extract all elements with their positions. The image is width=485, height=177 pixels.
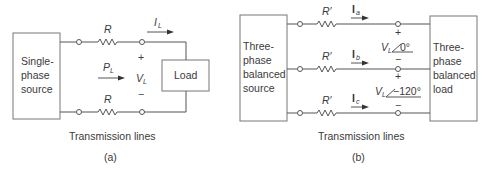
voltage-angle-bc: −120° (393, 85, 421, 97)
resistor-label-c: R′ (322, 94, 333, 106)
resistor-icon (317, 110, 336, 116)
current-subscript-b: b (356, 54, 360, 61)
subfigure-label-b: (b) (352, 151, 365, 163)
plus-sign: + (138, 51, 144, 63)
power-label: P (103, 61, 110, 73)
current-label: I (154, 16, 157, 28)
caption-transmission-lines: Transmission lines (318, 130, 405, 142)
load-label-line1: Three- (433, 41, 464, 53)
current-subscript: L (158, 22, 162, 29)
source-label-line1: Three- (243, 40, 274, 52)
terminal-icon (298, 22, 303, 27)
terminal-icon (396, 111, 401, 116)
power-subscript: L (110, 67, 114, 74)
voltage-subscript-ab: L (388, 47, 392, 54)
source-label-line3: balanced (243, 68, 286, 80)
source-label-line3: source (21, 83, 53, 95)
load-label-line4: load (433, 83, 453, 95)
current-subscript-a: a (356, 9, 360, 16)
terminal-icon (298, 111, 303, 116)
diagram-a-labels: Single- phase source Load R R I L P L + … (21, 16, 198, 163)
voltage-subscript-bc: L (382, 91, 386, 98)
resistor-icon (98, 109, 117, 115)
circuit-diagrams: Single- phase source Load R R I L P L + … (0, 0, 485, 177)
voltage-angle-ab: 0° (400, 41, 410, 53)
terminal-icon (298, 67, 303, 72)
current-subscript-c: c (356, 98, 360, 105)
current-label-c: I (352, 92, 355, 104)
source-label-line1: Single- (21, 55, 54, 67)
source-label-line2: phase (243, 54, 272, 66)
plus-sign-a: + (395, 26, 401, 38)
source-label-line4: source (243, 82, 275, 94)
voltage-subscript: L (143, 78, 147, 85)
minus-sign-b: − (395, 53, 401, 65)
current-label-a: I (352, 3, 355, 15)
resistor-icon (98, 39, 117, 45)
current-label-b: I (352, 48, 355, 60)
resistor-icon (317, 66, 336, 72)
resistor-label-top: R (104, 23, 112, 35)
plus-sign-b: + (395, 70, 401, 82)
resistor-label-a: R′ (322, 5, 333, 17)
terminal-icon (140, 40, 145, 45)
resistor-icon (317, 21, 336, 27)
terminal-icon (140, 110, 145, 115)
minus-sign-c: − (395, 99, 401, 111)
resistor-label-bottom: R (104, 93, 112, 105)
load-label: Load (174, 69, 198, 81)
caption-transmission-lines: Transmission lines (69, 130, 156, 142)
terminal-icon (77, 110, 82, 115)
minus-sign: − (138, 88, 144, 100)
load-label-line3: balanced (433, 69, 476, 81)
source-label-line2: phase (21, 69, 50, 81)
subfigure-label-a: (a) (104, 151, 117, 163)
load-label-line2: phase (433, 55, 462, 67)
diagram-b-labels: Three- phase balanced source Three- phas… (243, 3, 476, 163)
resistor-label-b: R′ (322, 50, 333, 62)
terminal-icon (77, 40, 82, 45)
